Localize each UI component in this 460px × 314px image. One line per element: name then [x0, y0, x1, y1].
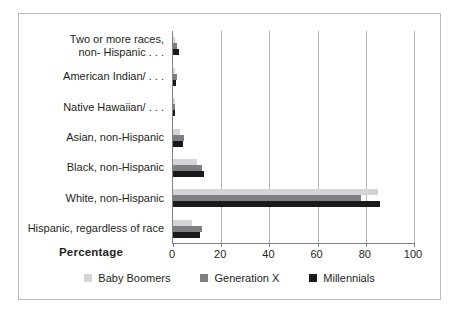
y-label-2: Native Hawaiian/ . . . — [0, 101, 164, 114]
chart-figure-frame: Percentage 020406080100 Two or more race… — [18, 13, 441, 300]
plot-area — [172, 31, 414, 244]
y-label-0: Two or more races, non- Hispanic . . . — [0, 33, 164, 59]
x-tick-label-20: 20 — [200, 248, 240, 261]
gridline-100 — [414, 31, 415, 243]
tick-mark-20 — [221, 243, 222, 247]
tick-mark-0 — [173, 243, 174, 247]
x-tick-label-100: 100 — [393, 248, 433, 261]
legend-swatch-icon-2 — [309, 274, 317, 282]
y-label-6: Hispanic, regardless of race — [0, 222, 164, 235]
y-label-5: White, non-Hispanic — [0, 192, 164, 205]
tick-mark-60 — [318, 243, 319, 247]
legend-label-0: Baby Boomers — [98, 272, 170, 284]
bar-2-6 — [173, 232, 200, 238]
bar-2-1 — [173, 80, 176, 86]
x-tick-label-60: 60 — [297, 248, 337, 261]
tick-mark-40 — [269, 243, 270, 247]
legend-swatch-icon-1 — [200, 274, 208, 282]
legend-item-0[interactable]: Baby Boomers — [84, 272, 170, 284]
x-tick-label-80: 80 — [345, 248, 385, 261]
legend-item-1[interactable]: Generation X — [200, 272, 279, 284]
tick-mark-100 — [414, 243, 415, 247]
bar-2-4 — [173, 171, 204, 177]
gridline-20 — [221, 31, 222, 243]
chart-legend: Baby BoomersGeneration XMillennials — [19, 272, 440, 284]
x-tick-label-40: 40 — [248, 248, 288, 261]
y-label-1: American Indian/ . . . — [0, 70, 164, 83]
bar-2-0 — [173, 49, 179, 55]
tick-mark-80 — [366, 243, 367, 247]
legend-label-1: Generation X — [214, 272, 279, 284]
y-label-3: Asian, non-Hispanic — [0, 131, 164, 144]
y-label-4: Black, non-Hispanic — [0, 161, 164, 174]
bar-2-5 — [173, 201, 380, 207]
x-axis-title: Percentage — [59, 246, 123, 258]
gridline-60 — [318, 31, 319, 243]
legend-item-2[interactable]: Millennials — [309, 272, 374, 284]
bar-2-3 — [173, 141, 183, 147]
gridline-80 — [366, 31, 367, 243]
legend-label-2: Millennials — [323, 272, 374, 284]
legend-swatch-icon-0 — [84, 274, 92, 282]
bar-2-2 — [173, 110, 175, 116]
x-tick-label-0: 0 — [152, 248, 192, 261]
gridline-40 — [269, 31, 270, 243]
